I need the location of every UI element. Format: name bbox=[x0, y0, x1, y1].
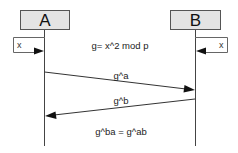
local-var-b-arrow-icon bbox=[196, 48, 206, 55]
participant-b: B bbox=[171, 11, 221, 31]
participant-a-label: A bbox=[39, 11, 51, 30]
result-text: g^ba = g^ab bbox=[95, 126, 146, 137]
local-var-b: x bbox=[196, 38, 228, 55]
local-var-a-arrow-icon bbox=[34, 48, 44, 55]
local-var-b-label: x bbox=[219, 40, 224, 50]
message-a-to-b-label: g^a bbox=[113, 70, 129, 81]
note-text: g= x^2 mod p bbox=[91, 40, 148, 51]
participant-a: A bbox=[21, 11, 70, 31]
message-b-to-a: g^b bbox=[45, 95, 195, 119]
local-var-a: x bbox=[14, 38, 45, 55]
sequence-diagram: A B x x g= x^2 mod p g^a g^b g^ba = g^ab bbox=[0, 0, 238, 153]
message-a-to-b-arrow-icon bbox=[184, 85, 196, 93]
local-var-a-label: x bbox=[17, 40, 22, 50]
message-b-to-a-arrow-icon bbox=[45, 112, 57, 120]
participant-b-label: B bbox=[190, 11, 201, 30]
message-b-to-a-label: g^b bbox=[113, 95, 128, 106]
message-a-to-b: g^a bbox=[45, 70, 196, 93]
